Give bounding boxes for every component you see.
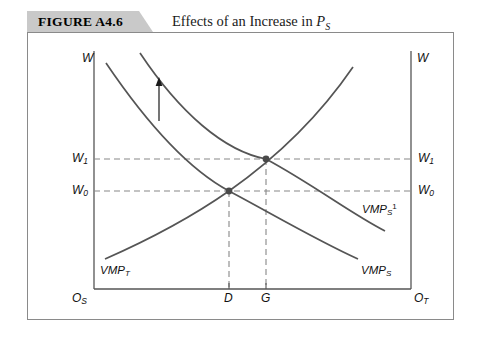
- curve-label-vmp-s-base: VMP: [361, 264, 386, 276]
- figure-title-symbol-subscript: S: [325, 21, 330, 32]
- wage-label-left-w0-base: W: [72, 183, 83, 197]
- curve-label-vmp-t-sub: T: [125, 269, 130, 278]
- curve-label-vmp-t: VMPT: [100, 264, 130, 278]
- figure-tag-label: FIGURE A4.6: [38, 14, 123, 30]
- wage-label-right-w1-base: W: [418, 151, 429, 165]
- curve-vmp-s-1: [140, 53, 385, 231]
- wage-label-left-w1-sub: 1: [83, 156, 88, 166]
- figure-title: Effects of an Increase in PS: [172, 13, 330, 32]
- origin-label-right: OT: [414, 291, 429, 306]
- axis-label-right-w: W: [417, 51, 428, 65]
- wage-label-right-w0-base: W: [418, 183, 429, 197]
- origin-label-left: OS: [72, 291, 87, 306]
- curve-label-vmp-s: VMPS: [361, 264, 391, 278]
- origin-label-right-sub: T: [423, 296, 428, 306]
- quantity-tick-label-g: G: [261, 291, 270, 305]
- wage-label-left-w0: W0: [72, 183, 88, 198]
- figure-frame: W W W1 W0 W1 W0 VMPT VMPS VMPS1 OS OT D …: [27, 32, 454, 320]
- origin-label-right-base: O: [414, 291, 423, 305]
- wage-label-right-w1: W1: [418, 151, 434, 166]
- curve-label-vmp-s-1-base: VMP: [362, 203, 387, 215]
- curve-label-vmp-s-1-sup: 1: [392, 202, 396, 211]
- wage-label-left-w0-sub: 0: [83, 188, 88, 198]
- wage-label-left-w1-base: W: [72, 151, 83, 165]
- curve-label-vmp-s-sub: S: [386, 269, 391, 278]
- figure-container: FIGURE A4.6 Effects of an Increase in PS: [0, 0, 481, 345]
- wage-label-right-w0-sub: 0: [429, 188, 434, 198]
- wage-label-right-w0: W0: [418, 183, 434, 198]
- wage-label-right-w1-sub: 1: [429, 156, 434, 166]
- quantity-tick-label-d: D: [224, 291, 233, 305]
- equilibrium-point-initial: [226, 188, 233, 195]
- upward-shift-arrow: [156, 77, 163, 121]
- curve-vmp-s: [106, 63, 358, 259]
- curve-label-vmp-t-base: VMP: [100, 264, 125, 276]
- axis-label-left-w: W: [82, 51, 93, 65]
- origin-label-left-base: O: [72, 291, 81, 305]
- curve-vmp-t: [105, 67, 353, 259]
- equilibrium-point-new: [263, 156, 270, 163]
- figure-title-prefix: Effects of an Increase in: [172, 13, 316, 29]
- curve-label-vmp-s-1: VMPS1: [362, 202, 397, 217]
- wage-label-left-w1: W1: [72, 151, 88, 166]
- figure-header: FIGURE A4.6 Effects of an Increase in PS: [27, 11, 455, 32]
- origin-label-left-sub: S: [81, 296, 87, 306]
- figure-title-symbol: P: [316, 13, 325, 29]
